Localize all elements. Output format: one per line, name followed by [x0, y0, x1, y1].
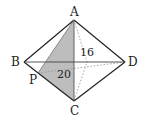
label-c: C — [70, 104, 79, 118]
geometry-diagram: A B C D P 16 20 — [0, 0, 143, 123]
diagonal-label: 20 — [57, 68, 71, 81]
label-a: A — [69, 5, 79, 19]
shaded-triangle-apc — [38, 20, 74, 101]
height-label: 16 — [80, 46, 94, 59]
hidden-edge-a-back-c — [74, 20, 87, 101]
label-b: B — [11, 55, 20, 69]
label-p: P — [29, 73, 37, 87]
label-d: D — [128, 55, 138, 69]
